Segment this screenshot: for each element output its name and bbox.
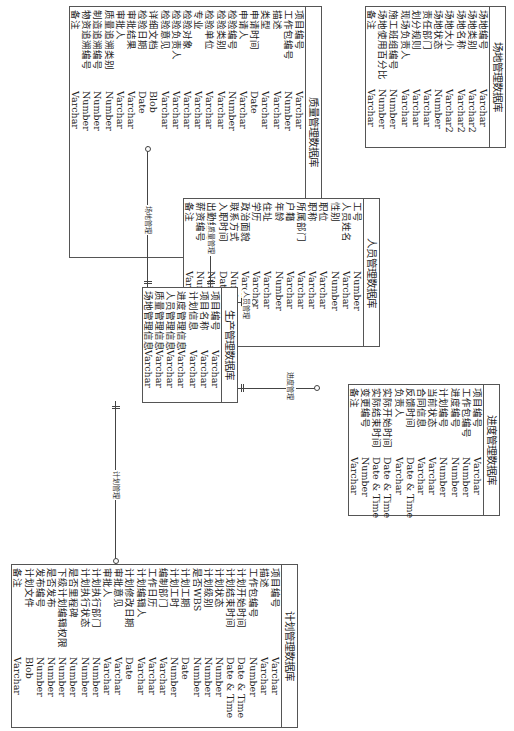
table-row: 户籍Varchar [285,199,296,346]
field-name: 项目编号 [294,10,305,50]
field-name: 项目编号 [210,291,221,331]
table-row: 场地使用百分比Number [377,7,388,147]
field-type: Varchar [204,91,215,129]
one-marker [144,283,152,284]
field-name: 质量管理信息 [154,291,165,351]
field-name: 制造追溯编号 [92,10,103,70]
field-type: Varchar [349,457,360,495]
field-type: Number [68,657,79,697]
table-row: 当前状态Varchar [427,385,438,515]
table-row: 审批结果Varchar [126,7,137,257]
field-name: 计划信息 [187,291,198,331]
field-name: 进度管理信息 [176,291,187,351]
table-row: 检验意见Varchar [159,7,170,257]
table-row: 计划工期Date [180,565,191,727]
field-type: Date & Time [225,657,236,718]
field-type: Number [46,657,57,697]
field-type: Number [433,89,444,129]
table-title: 生产管理数据库 [221,288,237,402]
field-type: Number [191,657,202,697]
table-row: 质量管理信息Varchar [154,288,165,402]
field-type: Number [352,271,363,311]
table-row: 场地状态Number [433,7,444,147]
field-name: 实际开始时间 [382,388,393,448]
field-name: 政治面貌 [240,202,251,242]
table-row: 计划状态Number [214,565,225,727]
field-name: 项目编号 [472,388,483,428]
field-type: Number [79,657,90,697]
field-type: Varchar [238,91,249,129]
field-type: Varchar [215,91,226,129]
table-row: 物资追溯编号Number [81,7,92,257]
field-name: 备注 [12,568,23,588]
table-row: 下级计划编辑权限Number [57,565,68,727]
field-name: 计划级别 [203,568,214,608]
field-name: 学历 [251,202,262,222]
relation-label-personnel: 人员管理 [242,290,252,320]
field-type: Date & Time [236,657,247,718]
field-type: Varchar [115,91,126,129]
field-type: Varchar [478,89,489,127]
field-type: Varchar [416,457,427,495]
field-name: 是否里程碑 [68,568,79,618]
field-name: 详细文档 [148,10,159,50]
relation-line-progress [238,388,320,389]
one-marker [112,408,120,409]
field-type: Number [273,271,284,311]
table-row: 住址Varchar [262,199,273,346]
field-name: 项目编号 [270,568,281,608]
field-name: 性别 [329,202,340,222]
field-name: 当前状态 [427,388,438,428]
table-row: 计划修改日期Date [124,565,135,727]
field-name: 发布编号 [35,568,46,608]
field-name: 入职时间 [217,202,228,242]
field-type: Varchar [341,271,352,309]
field-name: 进度编号 [449,388,460,428]
field-name: 检验负责人 [171,10,182,60]
field-type: Number [91,657,102,697]
field-name: 描述 [271,10,282,30]
table-row: 合同信息Varchar [416,385,427,515]
field-type: Date [124,657,135,680]
field-name: 施工班组编号 [388,10,399,70]
field-name: 工作包编号 [247,568,258,618]
table-row: 计划编号Number [438,385,449,515]
field-list: 项目编号Varchar项目名称Varchar计划信息Varchar进度管理信息V… [143,288,221,402]
field-type: Varchar [143,350,154,388]
field-type: Varchar [294,91,305,129]
relation-label-quality: 质量管理 [207,225,217,255]
field-type: Number [461,457,472,497]
field-type: Varchar [147,657,158,695]
field-type: Number [103,91,114,131]
table-row: 职称Varchar [307,199,318,346]
field-name: 合同信息 [416,388,427,428]
table-row: 项目编号Varchar [210,288,221,402]
field-name: 计划编辑人 [135,568,146,618]
table-row: 审批人Varchar [102,565,113,727]
table-row: 工号Number [352,199,363,346]
field-name: 质量追溯类别 [103,10,114,70]
field-name: 备注 [70,10,81,30]
field-name: 物资追溯编号 [81,10,92,70]
table-row: 制造追溯编号Number [92,7,103,257]
field-name: 场地名称 [455,10,466,50]
field-name: 备注 [349,388,360,408]
field-type: Varchar [193,91,204,129]
field-type: Blob [23,657,34,679]
table-row: 场地编号Varchar [478,7,489,147]
table-row: 计划级别Number [203,565,214,727]
field-name: 检验单位 [204,10,215,50]
field-type: Varchar [427,457,438,495]
table-row: 工作日历Varchar [147,565,158,727]
field-type: Varchar [318,271,329,309]
field-type: Varchar2 [444,89,455,133]
table-site-management: 场地管理数据库 场地编号Varchar场地类别Varchar2场地名称Varch… [365,6,506,148]
table-row: 审批意见Varchar [113,565,124,727]
field-type: Varchar [176,350,187,388]
table-row: 计划文件Blob [23,565,34,727]
field-type: Varchar [307,271,318,309]
table-row: 人员管理信息Varchar [165,288,176,402]
field-type: Varchar [12,657,23,695]
table-row: 是否WBSNumber [191,565,202,727]
field-name: 专业 [193,10,204,30]
